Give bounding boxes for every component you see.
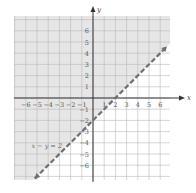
x-tick-label: 3 (125, 101, 129, 109)
x-tick-label: 2 (113, 101, 117, 109)
x-tick-label: 5 (147, 101, 151, 109)
x-tick-label: −5 (32, 101, 42, 109)
x-tick-label: 6 (158, 101, 162, 109)
y-tick-label: 2 (85, 72, 89, 80)
y-tick-label: −2 (79, 117, 89, 125)
equation-label: x − y = 2 (31, 142, 62, 150)
x-tick-label: −2 (66, 101, 76, 109)
x-tick-label: −3 (55, 101, 65, 109)
x-tick-label: −6 (21, 101, 31, 109)
x-axis-label: x (187, 94, 191, 102)
x-tick-label: −4 (43, 101, 53, 109)
y-axis-arrow-icon (91, 6, 96, 12)
x-axis-arrow-icon (179, 96, 185, 101)
y-axis-label: y (96, 6, 102, 14)
graph: xy−6−5−4−3−2−1123456654321−1−2−3−4−5−6x … (0, 0, 196, 193)
y-tick-label: 5 (85, 39, 89, 47)
y-tick-label: 6 (85, 27, 89, 35)
x-tick-label: 4 (136, 101, 140, 109)
y-tick-label: −5 (79, 151, 89, 159)
y-tick-label: 3 (85, 61, 89, 69)
y-tick-label: −4 (79, 139, 89, 147)
y-tick-label: 1 (85, 83, 89, 91)
y-tick-label: −1 (79, 106, 89, 114)
y-tick-label: −6 (79, 162, 89, 170)
y-tick-label: 4 (85, 50, 89, 58)
